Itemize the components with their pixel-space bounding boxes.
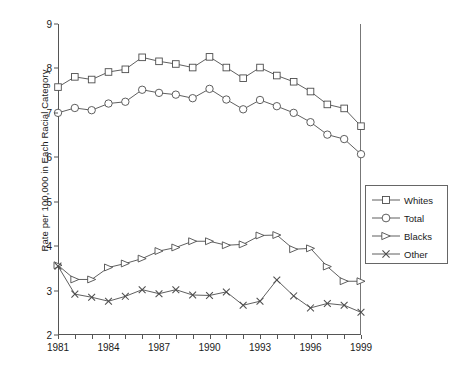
data-point-cross (172, 286, 179, 293)
data-point-circle (256, 96, 263, 103)
data-point-square (257, 64, 264, 71)
x-tick-mark (361, 335, 362, 339)
y-tick-mark (54, 112, 58, 113)
data-point-square (189, 64, 196, 71)
series-total (54, 85, 364, 158)
series-blacks (54, 232, 365, 285)
chart-legend: WhitesTotalBlacksOther (365, 185, 448, 264)
y-tick-label: 9 (46, 19, 52, 30)
square-marker-icon (371, 193, 401, 207)
data-point-triangle (155, 248, 163, 255)
data-point-cross (307, 304, 314, 311)
series-other (55, 263, 365, 316)
data-point-circle (357, 150, 364, 157)
y-tick-mark (54, 157, 58, 158)
x-tick-label: 1981 (47, 342, 69, 353)
data-point-triangle (239, 241, 247, 248)
data-point-square (223, 64, 230, 71)
data-point-triangle (172, 244, 180, 251)
legend-label: Blacks (404, 231, 432, 242)
data-point-circle (71, 104, 78, 111)
data-point-triangle (357, 278, 365, 285)
data-point-circle (155, 89, 162, 96)
line-chart-figure: Rate per 100,000 in Each Racial Category… (0, 0, 459, 379)
data-point-triangle (206, 238, 214, 245)
data-point-square (341, 105, 348, 112)
data-point-square (240, 75, 247, 82)
legend-label: Total (404, 213, 424, 224)
legend-item-total[interactable]: Total (371, 210, 424, 226)
triangle-marker-icon (371, 229, 401, 243)
legend-item-whites[interactable]: Whites (371, 192, 433, 208)
legend-label: Whites (404, 195, 433, 206)
legend-item-other[interactable]: Other (371, 246, 428, 262)
data-point-circle (122, 98, 129, 105)
x-tick-mark (277, 335, 278, 339)
data-point-cross (156, 290, 163, 297)
x-tick-mark (125, 335, 126, 339)
x-tick-mark (193, 335, 194, 339)
data-point-square (105, 69, 112, 76)
data-point-triangle (290, 246, 298, 253)
circle-marker-icon (371, 211, 401, 225)
data-point-triangle (71, 276, 79, 283)
data-point-cross (240, 302, 247, 309)
legend-label: Other (404, 249, 428, 260)
series-canvas (58, 24, 361, 335)
data-point-circle (189, 94, 196, 101)
data-point-square (307, 88, 314, 95)
data-point-cross (122, 293, 129, 300)
data-point-circle (307, 118, 314, 125)
data-point-triangle (382, 232, 390, 239)
data-point-square (156, 58, 163, 65)
plot-area: 234567891981198419871990199319961999 (58, 24, 361, 335)
data-point-circle (340, 135, 347, 142)
data-point-cross (358, 309, 365, 316)
x-tick-label: 1996 (299, 342, 321, 353)
data-point-circle (138, 86, 145, 93)
data-point-cross (139, 286, 146, 293)
y-tick-label: 7 (46, 107, 52, 118)
x-tick-mark (92, 335, 93, 339)
x-tick-label: 1990 (198, 342, 220, 353)
legend-item-blacks[interactable]: Blacks (371, 228, 432, 244)
data-point-circle (223, 96, 230, 103)
x-tick-mark (176, 335, 177, 339)
data-point-square (324, 101, 331, 108)
x-tick-label: 1987 (148, 342, 170, 353)
data-point-circle (172, 91, 179, 98)
data-point-circle (382, 214, 390, 222)
data-point-circle (88, 106, 95, 113)
data-point-triangle (138, 255, 146, 262)
y-tick-label: 4 (46, 241, 52, 252)
data-point-square (358, 123, 365, 130)
data-point-triangle (121, 260, 129, 267)
data-point-circle (239, 106, 246, 113)
x-tick-mark (344, 335, 345, 339)
x-tick-mark (294, 335, 295, 339)
data-point-triangle (222, 242, 230, 249)
x-tick-label: 1999 (350, 342, 372, 353)
data-point-cross (105, 298, 112, 305)
x-tick-mark (159, 335, 160, 339)
y-tick-mark (54, 24, 58, 25)
y-tick-label: 8 (46, 63, 52, 74)
data-point-circle (105, 100, 112, 107)
data-point-circle (324, 131, 331, 138)
x-tick-mark (226, 335, 227, 339)
data-point-square (206, 54, 213, 61)
y-tick-label: 2 (46, 330, 52, 341)
data-point-square (55, 84, 62, 91)
data-point-square (72, 74, 79, 81)
data-point-cross (290, 293, 297, 300)
data-point-square (122, 66, 129, 73)
x-tick-label: 1984 (97, 342, 119, 353)
x-tick-mark (142, 335, 143, 339)
data-point-circle (273, 102, 280, 109)
x-tick-mark (109, 335, 110, 339)
data-point-circle (206, 85, 213, 92)
y-tick-label: 3 (46, 285, 52, 296)
data-point-square (88, 76, 95, 83)
y-tick-mark (54, 246, 58, 247)
data-point-triangle (340, 278, 348, 285)
